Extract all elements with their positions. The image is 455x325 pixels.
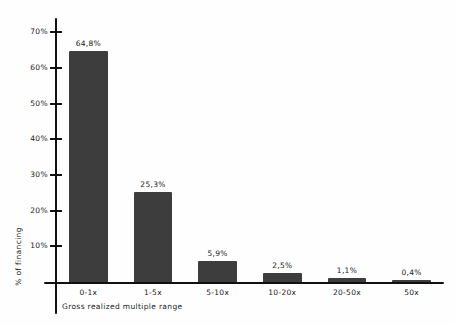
y-axis-tick-label: 60%: [30, 63, 48, 72]
bar: [198, 261, 237, 282]
bar-chart: 10%20%30%40%50%60%70% 64,8%25,3%5,9%2,5%…: [0, 0, 455, 325]
x-axis-category-label: 50x: [379, 288, 444, 297]
bar-value-label: 5,9%: [198, 249, 237, 258]
bar: [69, 51, 108, 282]
y-axis-tick-label: 40%: [30, 134, 48, 143]
bar-group: 64,8%: [69, 18, 108, 282]
y-axis-tick-label: 70%: [30, 27, 48, 36]
x-axis-title: Gross realized multiple range: [62, 302, 182, 311]
bar: [392, 280, 431, 282]
bar-value-label: 25,3%: [134, 180, 173, 189]
x-axis-category-label: 1-5x: [121, 288, 186, 297]
bar-value-label: 1,1%: [328, 266, 367, 275]
bar-value-label: 64,8%: [69, 39, 108, 48]
bar-group: 1,1%: [328, 18, 367, 282]
bar: [134, 192, 173, 282]
y-axis-tick-label-row: 70%: [0, 27, 48, 37]
bar-group: 0,4%: [392, 18, 431, 282]
y-axis-tick-label-row: 30%: [0, 170, 48, 180]
x-axis-category-label: 20-50x: [315, 288, 380, 297]
plot-area: 64,8%25,3%5,9%2,5%1,1%0,4%: [56, 18, 444, 282]
bar: [328, 278, 367, 282]
y-axis-tick-label: 20%: [30, 206, 48, 215]
x-axis-category-label: 10-20x: [250, 288, 315, 297]
y-axis-tick-label: 50%: [30, 99, 48, 108]
y-axis-tick-label-row: 40%: [0, 134, 48, 144]
y-axis-tick-label: 10%: [30, 241, 48, 250]
bar-group: 2,5%: [263, 18, 302, 282]
bar-value-label: 0,4%: [392, 268, 431, 277]
y-axis-title: % of financing: [14, 227, 23, 287]
bar-group: 5,9%: [198, 18, 237, 282]
x-axis-line: [44, 282, 444, 284]
bar-value-label: 2,5%: [263, 261, 302, 270]
bar: [263, 273, 302, 282]
x-axis-category-label: 5-10x: [185, 288, 250, 297]
bar-group: 25,3%: [134, 18, 173, 282]
y-axis-tick-label: 30%: [30, 170, 48, 179]
y-axis-tick-label-row: 20%: [0, 206, 48, 216]
y-axis-tick-label-row: 50%: [0, 99, 48, 109]
x-axis-category-label: 0-1x: [56, 288, 121, 297]
y-axis-tick-label-row: 60%: [0, 63, 48, 73]
y-axis-tick-label-row: 10%: [0, 241, 48, 251]
